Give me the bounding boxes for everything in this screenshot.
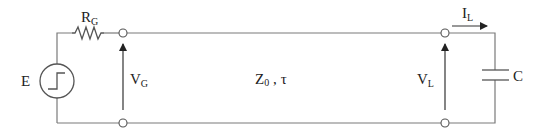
step-source-icon xyxy=(40,64,74,98)
load-top-wire xyxy=(449,33,495,70)
line-parameters-label: Z0 ,τ xyxy=(255,71,287,88)
resistor-icon xyxy=(72,27,104,39)
source-branch xyxy=(57,33,119,123)
output-terminal-bottom xyxy=(441,119,449,127)
resistor-label: RG xyxy=(81,9,98,27)
load-bottom-wire xyxy=(449,80,495,123)
capacitor-label: C xyxy=(513,68,523,84)
capacitor-icon xyxy=(482,70,509,80)
circuit-diagram: E RG VG Z0 ,τ VL C IL xyxy=(0,0,539,135)
input-terminal-bottom xyxy=(119,119,127,127)
output-terminal-top xyxy=(441,29,449,37)
vl-label: VL xyxy=(417,71,434,89)
left-top-wire xyxy=(57,33,72,64)
il-label: IL xyxy=(462,5,473,23)
input-terminal-top xyxy=(119,29,127,37)
vg-label: VG xyxy=(130,71,148,89)
source-label: E xyxy=(21,73,30,89)
